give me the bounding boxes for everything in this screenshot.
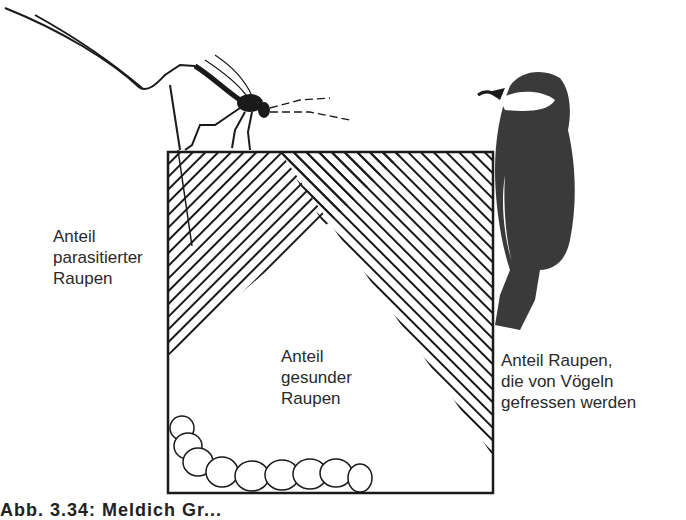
label-line: Anteil bbox=[281, 346, 352, 367]
label-line: gefressen werden bbox=[501, 392, 636, 413]
label-line: Raupen bbox=[53, 268, 143, 289]
label-line: parasitierter bbox=[53, 247, 143, 268]
label-healthy: Anteil gesunder Raupen bbox=[281, 346, 352, 409]
label-parasitized: Anteil parasitierter Raupen bbox=[53, 226, 143, 289]
label-line: Raupen bbox=[281, 388, 352, 409]
caterpillar-icon bbox=[170, 416, 372, 492]
label-eaten: Anteil Raupen, die von Vögeln gefressen … bbox=[501, 350, 636, 413]
label-line: gesunder bbox=[281, 367, 352, 388]
wasp-icon bbox=[5, 8, 350, 150]
label-line: die von Vögeln bbox=[501, 371, 636, 392]
label-line: Anteil Raupen, bbox=[501, 350, 636, 371]
figure-caption: Abb. 3.34: Meldich Gr... bbox=[0, 500, 222, 520]
label-line: Anteil bbox=[53, 226, 143, 247]
